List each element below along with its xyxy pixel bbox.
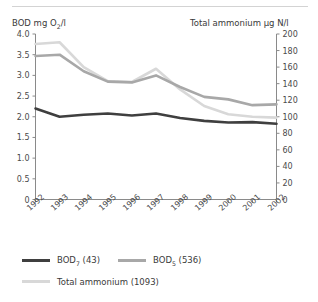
right-tick-label: 120 — [283, 96, 298, 105]
legend-swatch-line-icon — [22, 280, 50, 283]
left-tick-label: 4.0 — [17, 30, 30, 39]
left-tick-label: 2.5 — [17, 92, 30, 101]
chart-plot-area: 00.51.01.52.02.53.03.54.0 02040608010012… — [0, 28, 318, 208]
legend-label: Total ammonium (1093) — [57, 277, 159, 287]
legend-item[interactable]: BOD7 (43) — [22, 255, 100, 267]
right-axis-ticks: 020406080100120140160180200 — [277, 30, 298, 205]
left-tick-label: 3.5 — [17, 51, 30, 60]
right-tick-label: 20 — [283, 179, 293, 188]
right-tick-label: 60 — [283, 146, 293, 155]
legend-label: BOD7 (43) — [57, 255, 100, 267]
right-tick-label: 140 — [283, 80, 298, 89]
right-tick-label: 160 — [283, 63, 298, 72]
chart-legend: BOD7 (43)BOD5 (536)Total ammonium (1093) — [0, 250, 318, 292]
legend-label: BOD5 (536) — [153, 255, 201, 267]
legend-row: Total ammonium (1093) — [0, 271, 318, 292]
legend-swatch-line-icon — [118, 259, 146, 262]
right-tick-label: 180 — [283, 47, 298, 56]
legend-row: BOD7 (43)BOD5 (536) — [0, 250, 318, 271]
legend-swatch-line-icon — [22, 259, 50, 262]
left-tick-label: 1.0 — [17, 154, 30, 163]
left-axis-ticks: 00.51.01.52.02.53.03.54.0 — [17, 30, 36, 205]
legend-item[interactable]: Total ammonium (1093) — [22, 277, 159, 287]
series-lines — [36, 42, 277, 124]
top-divider-rule — [12, 6, 308, 7]
left-tick-label: 3.0 — [17, 71, 30, 80]
right-tick-label: 200 — [283, 30, 298, 39]
left-axis-title-suffix: /l — [61, 18, 66, 28]
right-tick-label: 40 — [283, 162, 293, 171]
left-tick-label: 2.0 — [17, 113, 30, 122]
right-tick-label: 100 — [283, 113, 298, 122]
series-line-ammonium — [36, 42, 277, 117]
series-line-bod5 — [36, 55, 277, 105]
line-chart-svg: 00.51.01.52.02.53.03.54.0 02040608010012… — [0, 28, 318, 208]
right-axis-title: Total ammonium µg N/l — [190, 18, 289, 28]
legend-item[interactable]: BOD5 (536) — [118, 255, 201, 267]
left-tick-label: 1.5 — [17, 133, 30, 142]
right-tick-label: 80 — [283, 129, 293, 138]
left-axis-title-prefix: BOD mg O — [12, 18, 57, 28]
left-tick-label: 0.5 — [17, 175, 30, 184]
